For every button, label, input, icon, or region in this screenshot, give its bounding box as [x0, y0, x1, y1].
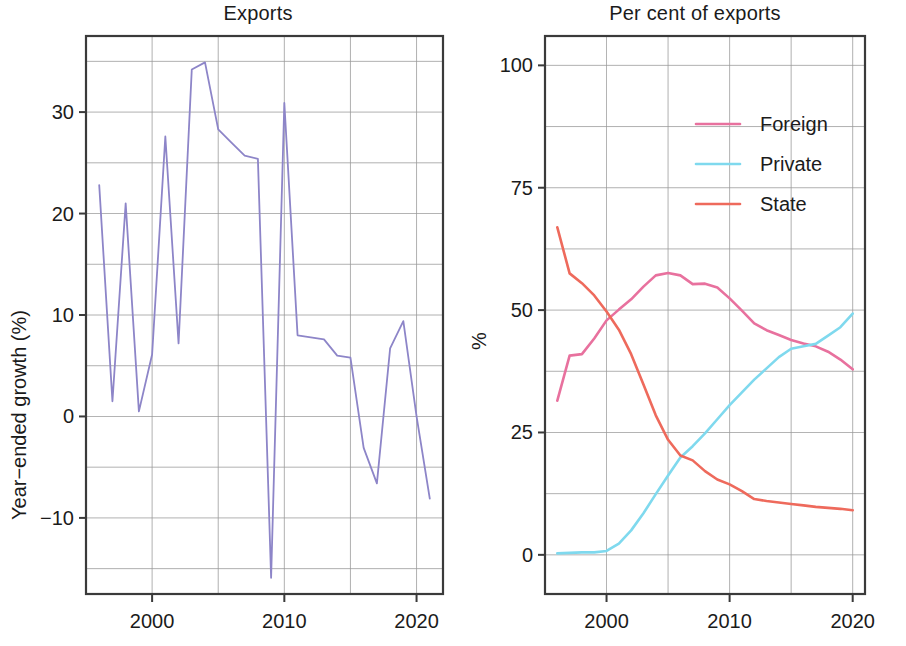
- x-tick-label: 2020: [394, 610, 439, 632]
- y-tick-label: 30: [52, 101, 74, 123]
- y-tick-label: 20: [52, 203, 74, 225]
- legend-label-foreign: Foreign: [760, 113, 828, 135]
- x-tick-label: 2020: [830, 610, 875, 632]
- y-tick-label: 50: [511, 299, 533, 321]
- legend-label-private: Private: [760, 153, 822, 175]
- y-tick-label: 25: [511, 421, 533, 443]
- plot-area-per-cent: 0255075100200020102020ForeignPrivateStat…: [460, 0, 906, 646]
- series-line-private: [557, 314, 852, 554]
- x-tick-label: 2010: [262, 610, 307, 632]
- figure-container: Exports Year−ended growth (%) −100102030…: [0, 0, 906, 646]
- x-tick-label: 2000: [584, 610, 629, 632]
- y-tick-label: 0: [522, 544, 533, 566]
- plot-area-exports: −100102030200020102020: [0, 0, 460, 646]
- y-axis-label-right: %: [468, 332, 491, 350]
- legend-label-state: State: [760, 193, 807, 215]
- y-tick-label: 100: [500, 54, 533, 76]
- y-tick-label: −10: [40, 507, 74, 529]
- series-line-state: [557, 227, 852, 510]
- y-tick-label: 10: [52, 304, 74, 326]
- series-line-year-ended-export-growth: [99, 62, 430, 577]
- y-tick-label: 0: [63, 405, 74, 427]
- y-tick-label: 75: [511, 177, 533, 199]
- panel-per-cent-of-exports: Per cent of exports 02550751002000201020…: [460, 0, 906, 646]
- x-tick-label: 2000: [130, 610, 175, 632]
- panel-exports-growth: Exports Year−ended growth (%) −100102030…: [0, 0, 460, 646]
- series-line-foreign: [557, 273, 852, 401]
- x-tick-label: 2010: [707, 610, 752, 632]
